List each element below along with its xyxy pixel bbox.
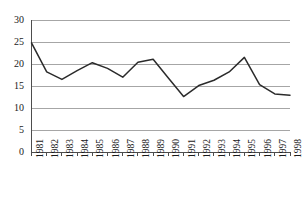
x-tick-label: 1995 (248, 139, 258, 158)
x-tick-label: 1981 (36, 139, 46, 158)
x-tick-label: 1984 (81, 139, 91, 158)
x-tick-label: 1988 (142, 139, 152, 158)
x-tick-label: 1991 (188, 139, 198, 158)
y-tick-label: 10 (2, 103, 24, 113)
y-tick-label: 0 (2, 147, 24, 157)
line-chart: 051015202530 198119821983198419851986198… (0, 0, 304, 198)
x-tick-label: 1983 (66, 139, 76, 158)
x-tick-label: 1993 (218, 139, 228, 158)
x-tick-label: 1994 (233, 139, 243, 158)
data-series-group (32, 43, 291, 97)
data-line (32, 43, 291, 97)
x-tick-label: 1985 (96, 139, 106, 158)
x-tick-label: 1982 (51, 139, 61, 158)
y-tick-label: 15 (2, 81, 24, 91)
y-tick-label: 20 (2, 59, 24, 69)
x-tick-label: 1990 (172, 139, 182, 158)
x-tick-label: 1992 (203, 139, 213, 158)
y-tick-label: 5 (2, 125, 24, 135)
x-tick-label: 1996 (264, 139, 274, 158)
x-tick-label: 1987 (127, 139, 137, 158)
x-tick-label: 1989 (157, 139, 167, 158)
chart-plot-area (0, 0, 304, 198)
y-tick-label: 30 (2, 15, 24, 25)
x-tick-label: 1997 (279, 139, 289, 158)
x-tick-label: 1986 (112, 139, 122, 158)
x-tick-label: 1998 (294, 139, 304, 158)
y-tick-label: 25 (2, 37, 24, 47)
